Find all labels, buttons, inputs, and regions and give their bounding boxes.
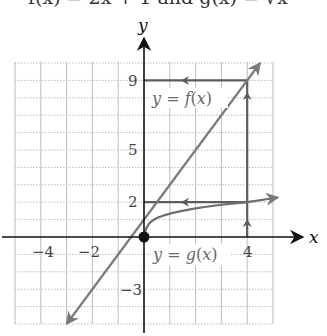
y-axis-label: y	[137, 15, 148, 35]
y-tick-label: −3	[120, 281, 142, 299]
y-tick-label: 2	[128, 193, 138, 211]
axes	[2, 38, 303, 333]
curve-g	[144, 198, 278, 238]
x-tick-label: 4	[243, 243, 253, 261]
curve-f-label: y = f(x)	[151, 89, 212, 108]
function-composition-graph: x y −4 −2 4 9 5 2 −3 y = f(x) y = g(x)	[0, 0, 327, 336]
origin-point	[139, 232, 150, 243]
x-axis-label: x	[309, 227, 319, 247]
y-tick-label: 9	[128, 72, 138, 90]
curve-g-label: y = g(x)	[152, 245, 217, 264]
x-tick-label: −4	[32, 243, 54, 261]
y-tick-label: 5	[128, 141, 138, 159]
x-tick-label: −2	[78, 243, 100, 261]
